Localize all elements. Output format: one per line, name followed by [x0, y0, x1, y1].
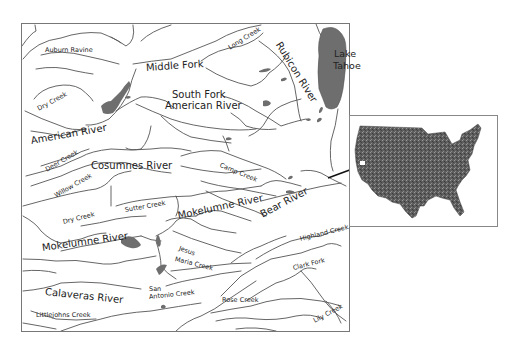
us-map-silhouette: [350, 116, 497, 226]
study-area-marker: [360, 161, 365, 165]
us-locator-inset: [349, 115, 498, 227]
